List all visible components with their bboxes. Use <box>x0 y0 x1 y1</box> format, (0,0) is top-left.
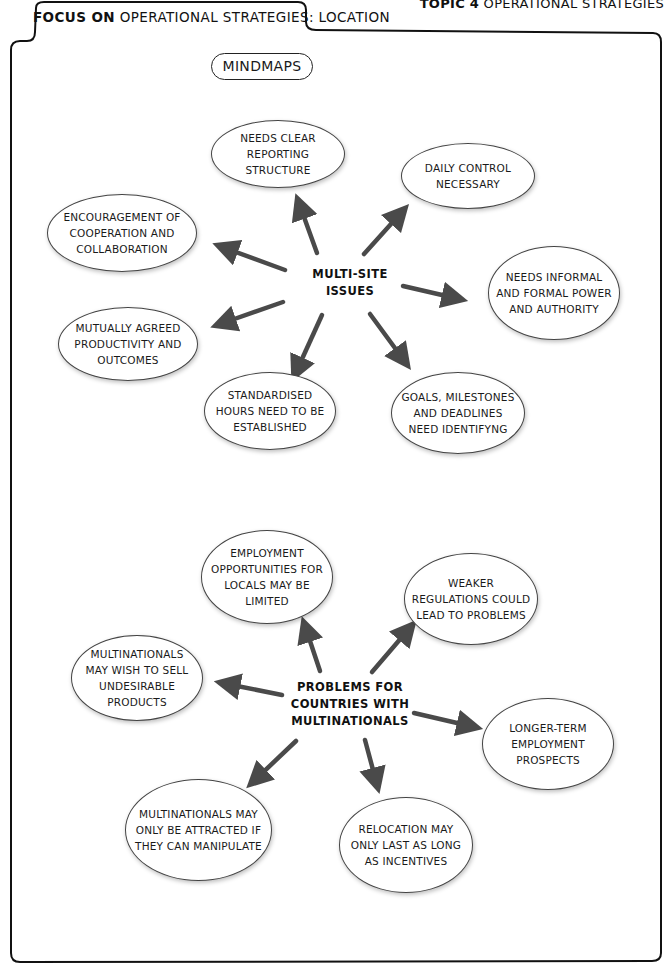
topic-header: TOPIC 4 OPERATIONAL STRATEGIES <box>420 0 664 11</box>
mindmap-2-node: MULTINATIONALS MAY WISH TO SELL UNDESIRA… <box>71 635 203 721</box>
mindmap-1-node: STANDARDISED HOURS NEED TO BE ESTABLISHE… <box>204 372 336 450</box>
mindmap-2-node: LONGER-TERM EMPLOYMENT PROSPECTS <box>482 698 614 790</box>
section-title-pill: MINDMAPS <box>211 53 313 80</box>
mindmap-1-node: NEEDS CLEAR REPORTING STRUCTURE <box>211 120 345 188</box>
mindmap-2-hub: PROBLEMS FOR COUNTRIES WITH MULTINATIONA… <box>275 679 425 730</box>
mindmap-1-node: MUTUALLY AGREED PRODUCTIVITY AND OUTCOME… <box>58 307 198 381</box>
focus-title: OPERATIONAL STRATEGIES: LOCATION <box>115 9 390 25</box>
mindmap-1-node: ENCOURAGEMENT OF COOPERATION AND COLLABO… <box>47 194 197 272</box>
focus-label: FOCUS ON <box>33 9 115 25</box>
mindmap-1-node: GOALS, MILESTONES AND DEADLINES NEED IDE… <box>391 372 525 454</box>
mindmap-2-node: RELOCATION MAY ONLY LAST AS LONG AS INCE… <box>339 797 473 893</box>
mindmap-1-node: NEEDS INFORMAL AND FORMAL POWER AND AUTH… <box>488 246 620 340</box>
mindmap-1-node: DAILY CONTROL NECESSARY <box>401 143 535 209</box>
mindmap-2-node: MULTINATIONALS MAY ONLY BE ATTRACTED IF … <box>125 779 272 881</box>
mindmap-2-node: WEAKER REGULATIONS COULD LEAD TO PROBLEM… <box>404 553 538 645</box>
mindmap-1-hub: MULTI-SITE ISSUES <box>310 266 390 300</box>
mindmap-2-node: EMPLOYMENT OPPORTUNITIES FOR LOCALS MAY … <box>201 530 333 624</box>
topic-title: OPERATIONAL STRATEGIES <box>479 0 664 11</box>
topic-label: TOPIC 4 <box>420 0 480 11</box>
focus-tab-title: FOCUS ON OPERATIONAL STRATEGIES: LOCATIO… <box>33 9 390 25</box>
